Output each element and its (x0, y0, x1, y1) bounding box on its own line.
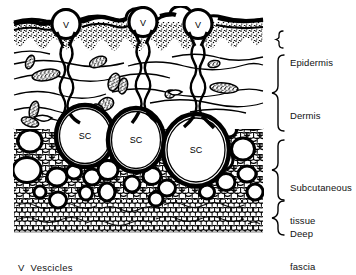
label-epidermis: Epidermis (290, 35, 333, 79)
label-dermis: Dermis (290, 88, 321, 132)
sc-label: SC (130, 135, 143, 145)
vesicle-label: V (140, 18, 146, 28)
label-deep-fascia: Deep fascia (290, 206, 315, 275)
label-dermis-text: Dermis (290, 110, 321, 121)
label-subcutaneous-line1: Subcutaneous (290, 182, 352, 193)
label-deep-line1: Deep (290, 228, 315, 239)
label-deep-line2: fascia (290, 261, 315, 272)
figure-legend-text: V Vescicles (18, 262, 73, 273)
label-epidermis-text: Epidermis (290, 57, 333, 68)
vesicle-label: V (195, 20, 201, 30)
figure-legend: V Vescicles (18, 240, 73, 275)
vesicle-label: V (63, 20, 69, 30)
sc-label: SC (190, 145, 203, 155)
sc-label: SC (79, 131, 92, 141)
